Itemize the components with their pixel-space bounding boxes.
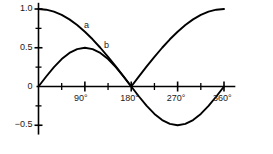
x-tick-label: 270° bbox=[167, 94, 186, 103]
x-tick-label: 180° bbox=[120, 94, 139, 103]
series-group bbox=[39, 9, 225, 125]
curve-label-b: b bbox=[104, 41, 109, 50]
axes-group bbox=[35, 3, 236, 135]
x-tick-label: 90° bbox=[74, 94, 88, 103]
trigonometric-curves-figure: 1.00.50−0.5 90°180°270°360° ab bbox=[0, 0, 273, 154]
chart-canvas bbox=[0, 0, 273, 154]
y-tick-label: 1.0 bbox=[20, 4, 33, 13]
y-tick-label: −0.5 bbox=[15, 120, 33, 129]
y-tick-label: 0 bbox=[27, 82, 32, 91]
curve-label-a: a bbox=[84, 21, 89, 30]
y-tick-label: 0.5 bbox=[20, 43, 33, 52]
x-tick-label: 360° bbox=[213, 94, 232, 103]
curve-a-path bbox=[39, 9, 225, 87]
